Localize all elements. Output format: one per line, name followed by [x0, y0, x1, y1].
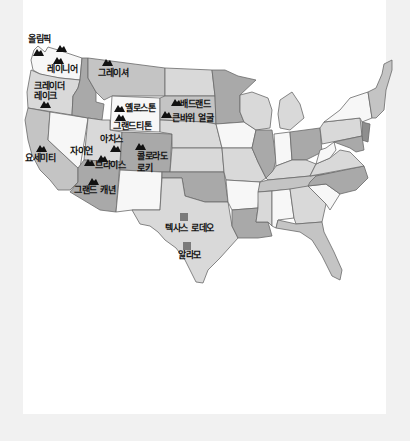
state-kansas	[170, 148, 224, 172]
mountain-icon	[110, 144, 121, 152]
state-mississippi	[256, 191, 272, 226]
label-yellowstone: 옐로스톤	[125, 103, 156, 113]
mountain-icon	[161, 110, 172, 118]
mountain-icon	[102, 58, 113, 66]
label-badlands: 배드랜드	[180, 99, 211, 109]
label-zion: 자이언	[70, 146, 93, 156]
label-bryce: 브라이스	[95, 160, 126, 170]
label-rainier: 레이니어	[47, 64, 78, 74]
state-florida	[276, 220, 342, 280]
state-montana	[88, 58, 165, 100]
label-colorado-rockies-1: 콜로라도	[137, 151, 168, 161]
state-arkansas	[226, 180, 260, 210]
mountain-icon	[115, 113, 126, 121]
state-michigan	[278, 92, 304, 130]
label-grand-teton: 그랜드티톤	[113, 121, 152, 131]
state-new-jersey	[362, 122, 370, 142]
state-ohio	[290, 128, 322, 160]
label-crater-lake-1: 크레이더	[34, 81, 65, 91]
state-new-mexico	[116, 170, 162, 212]
mountain-icon	[36, 144, 47, 152]
state-new-england	[368, 60, 392, 118]
square-marker-icon	[180, 213, 188, 221]
mountain-icon	[33, 48, 44, 56]
mountain-icon	[56, 44, 67, 52]
mountain-icon	[40, 100, 51, 108]
label-olympic: 올림픽	[28, 34, 51, 44]
label-texas-rodeo: 텍사스 로데오	[165, 223, 214, 233]
mountain-icon	[88, 177, 99, 185]
mountain-icon	[53, 56, 64, 64]
square-marker-icon	[183, 242, 191, 250]
label-alamo: 알라모	[178, 250, 201, 260]
label-yosemite: 요세미티	[25, 153, 56, 163]
label-glacier: 그레이셔	[98, 68, 129, 78]
state-north-dakota	[165, 68, 215, 96]
label-arches: 아치스	[100, 134, 123, 144]
mountain-icon	[84, 158, 95, 166]
mountain-icon	[135, 142, 146, 150]
label-mount-rushmore: 큰바위 얼굴	[172, 113, 213, 123]
label-grand-canyon: 그랜드 캐년	[74, 185, 115, 195]
mountain-icon	[114, 104, 125, 112]
label-colorado-rockies-2: 로키	[137, 163, 152, 173]
state-new-york	[324, 92, 372, 122]
